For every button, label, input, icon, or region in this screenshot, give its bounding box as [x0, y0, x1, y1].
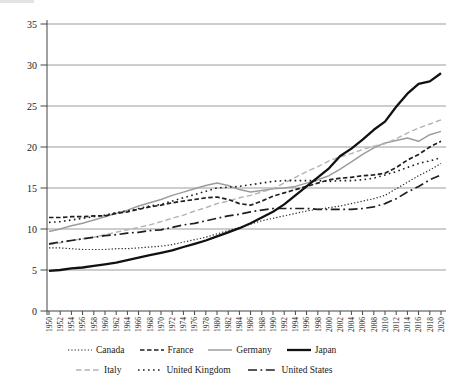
line-chart: 0510152025303519501952195419561958196019… [0, 0, 455, 343]
series-line-japan [49, 73, 441, 271]
y-axis-label: 10 [27, 224, 37, 235]
legend-label: United Kingdom [166, 365, 230, 375]
x-axis-label: 1962 [112, 317, 121, 332]
y-axis-label: 30 [27, 60, 37, 71]
legend-line-sample [208, 346, 232, 354]
x-axis-label: 1960 [101, 317, 110, 332]
x-axis-label: 1954 [67, 317, 76, 332]
legend-label: Italy [104, 365, 121, 375]
x-axis-label: 1956 [78, 317, 87, 332]
x-axis-ticks: 1950195219541956195819601962196419661968… [45, 311, 446, 332]
x-axis-label: 1976 [190, 317, 199, 332]
series-line-canada [49, 163, 441, 249]
legend-line-sample [138, 366, 162, 374]
series-line-germany [49, 131, 441, 231]
y-axis-label: 25 [27, 101, 37, 112]
gridlines [47, 24, 446, 270]
legend-item-united-kingdom: United Kingdom [138, 365, 230, 375]
y-axis-label: 20 [27, 142, 37, 153]
x-axis-label: 1984 [235, 317, 244, 332]
x-axis-label: 1994 [291, 317, 300, 332]
legend-item-united-states: United States [248, 365, 333, 375]
legend-label: France [168, 345, 194, 355]
line-chart-figure: 0510152025303519501952195419561958196019… [0, 0, 455, 388]
x-axis-label: 1950 [45, 317, 54, 332]
legend-row-1: CanadaFranceGermanyJapan [68, 345, 336, 355]
x-axis-label: 2002 [336, 317, 345, 332]
x-axis-label: 1964 [123, 317, 132, 332]
x-axis-label: 1986 [246, 317, 255, 332]
y-axis-ticks: 05101520253035 [27, 19, 47, 317]
x-axis-label: 1952 [56, 317, 65, 332]
series-line-france [49, 141, 441, 217]
legend-label: Canada [96, 345, 125, 355]
page: { "chart_data": { "type": "line", "title… [0, 0, 455, 388]
legend-line-sample [140, 346, 164, 354]
y-axis-label: 5 [32, 265, 37, 276]
legend-row-2: ItalyUnited KingdomUnited States [76, 365, 332, 375]
x-axis-label: 1990 [269, 317, 278, 332]
x-axis-label: 2004 [347, 317, 356, 332]
x-axis-label: 2006 [358, 317, 367, 332]
x-axis-label: 2008 [370, 317, 379, 332]
legend-label: United States [282, 365, 333, 375]
x-axis-label: 2018 [426, 317, 435, 332]
y-axis-label: 35 [27, 19, 37, 30]
legend-item-france: France [140, 345, 194, 355]
x-axis-label: 1966 [134, 317, 143, 332]
x-axis-label: 1968 [146, 317, 155, 332]
x-axis-label: 1982 [224, 317, 233, 332]
y-axis-label: 0 [32, 306, 37, 317]
axes [47, 20, 446, 315]
series-lines [49, 73, 441, 271]
legend-line-sample [248, 366, 278, 374]
x-axis-label: 2014 [403, 317, 412, 332]
legend-line-sample [287, 346, 311, 354]
y-axis-label: 15 [27, 183, 37, 194]
x-axis-label: 2012 [392, 317, 401, 332]
legend-item-germany: Germany [208, 345, 271, 355]
x-axis-label: 1998 [314, 317, 323, 332]
legend-item-japan: Japan [287, 345, 337, 355]
x-axis-label: 2000 [325, 317, 334, 332]
legend-item-canada: Canada [68, 345, 125, 355]
x-axis-label: 1992 [280, 317, 289, 332]
x-axis-label: 1974 [179, 317, 188, 332]
x-axis-label: 1988 [258, 317, 267, 332]
x-axis-label: 1980 [213, 317, 222, 332]
x-axis-label: 1970 [157, 317, 166, 332]
legend-label: Japan [315, 345, 337, 355]
x-axis-label: 2010 [381, 317, 390, 332]
x-axis-label: 1958 [90, 317, 99, 332]
legend-label: Germany [236, 345, 271, 355]
x-axis-label: 2020 [437, 317, 446, 332]
x-axis-label: 1978 [202, 317, 211, 332]
legend-line-sample [68, 346, 92, 354]
legend-line-sample [76, 366, 100, 374]
x-axis-label: 1972 [168, 317, 177, 332]
x-axis-label: 1996 [302, 317, 311, 332]
legend-item-italy: Italy [76, 365, 121, 375]
x-axis-label: 2016 [414, 317, 423, 332]
